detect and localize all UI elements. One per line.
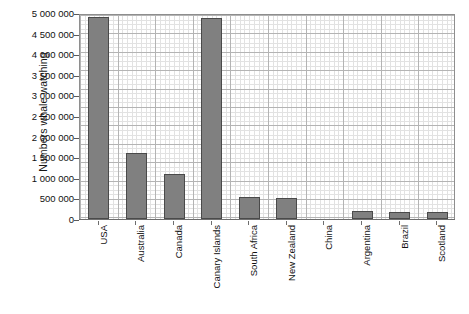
y-axis-tick-label: 5 000 000 xyxy=(20,9,74,19)
x-axis-tick-label: Canada xyxy=(173,225,184,258)
bar-new-zealand xyxy=(276,198,297,219)
x-axis-tick-label: Scotland xyxy=(436,225,447,262)
y-axis-tick-mark xyxy=(74,76,79,77)
x-axis-tick-label-wrap: Scotland xyxy=(428,221,444,314)
bar-australia xyxy=(126,153,147,219)
y-axis-tick-mark xyxy=(74,199,79,200)
y-axis-tick-label: 4 000 000 xyxy=(20,50,74,60)
x-axis-tick-label-wrap: New Zealand xyxy=(278,221,294,314)
y-axis-tick-label: 4 500 000 xyxy=(20,30,74,40)
x-axis-tick-labels: USAAustraliaCanadaCanary IslandsSouth Af… xyxy=(79,221,455,314)
x-axis-tick-label-wrap: Brazil xyxy=(391,221,407,314)
x-axis-tick-label-wrap: Canada xyxy=(165,221,181,314)
x-axis-tick-label-wrap: Argentina xyxy=(353,221,369,314)
x-axis-baseline xyxy=(79,219,455,220)
x-axis-tick-label: China xyxy=(323,225,334,250)
y-axis-tick-label: 2 000 000 xyxy=(20,133,74,143)
x-axis-tick-label: Canary Islands xyxy=(211,225,222,288)
y-axis-tick-mark xyxy=(74,14,79,15)
y-axis-tick-label: 0 xyxy=(20,215,74,225)
y-axis-tick-mark xyxy=(74,117,79,118)
y-axis-tick-label: 3 500 000 xyxy=(20,71,74,81)
y-axis-tick-mark xyxy=(74,35,79,36)
x-axis-tick-label-wrap: China xyxy=(315,221,331,314)
x-axis-tick-label-wrap: Canary Islands xyxy=(203,221,219,314)
y-axis-tick-mark xyxy=(74,179,79,180)
x-axis-tick-label-wrap: USA xyxy=(90,221,106,314)
y-axis-tick-label: 1 000 000 xyxy=(20,174,74,184)
x-axis-tick-label: Argentina xyxy=(361,225,372,266)
y-axis-tick-mark xyxy=(74,138,79,139)
y-axis-tick-label: 500 000 xyxy=(20,195,74,205)
y-axis-tick-mark xyxy=(74,220,79,221)
y-axis-tick-mark xyxy=(74,96,79,97)
bar-canada xyxy=(164,174,185,219)
x-axis-tick-label: Australia xyxy=(135,225,146,262)
x-axis-tick-label: New Zealand xyxy=(286,225,297,281)
y-axis-tick-mark xyxy=(74,158,79,159)
y-axis-tick-mark xyxy=(74,55,79,56)
x-axis-tick-label: Brazil xyxy=(399,225,410,249)
bar-usa xyxy=(88,17,109,219)
plot-area xyxy=(79,14,455,220)
x-axis-tick-label: South Africa xyxy=(248,225,259,276)
bar-scotland xyxy=(427,212,448,219)
bar-canary-islands xyxy=(201,18,222,219)
x-axis-tick-label-wrap: South Africa xyxy=(240,221,256,314)
y-axis-tick-labels: 5 000 0004 500 0004 000 0003 500 0003 00… xyxy=(20,14,74,220)
bar-chart: Numbers whale watching 5 000 0004 500 00… xyxy=(0,0,469,314)
y-axis-tick-label: 1 500 000 xyxy=(20,153,74,163)
x-axis-tick-label: USA xyxy=(98,225,109,245)
x-axis-tick-label-wrap: Australia xyxy=(127,221,143,314)
y-axis-tick-label: 3 000 000 xyxy=(20,92,74,102)
bar-brazil xyxy=(389,212,410,219)
bar-argentina xyxy=(352,211,373,219)
y-axis-tick-label: 2 500 000 xyxy=(20,112,74,122)
bar-south-africa xyxy=(239,197,260,219)
